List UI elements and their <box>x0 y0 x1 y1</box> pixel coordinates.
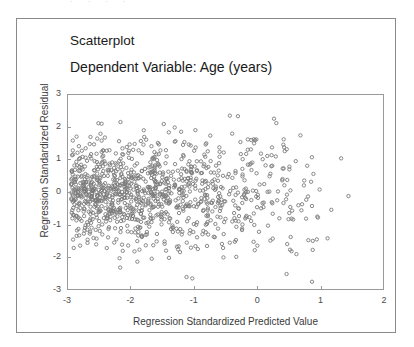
scatter-point <box>191 277 194 280</box>
scatter-point <box>98 229 101 232</box>
scatter-point <box>307 239 310 242</box>
scatter-point <box>271 212 274 215</box>
scatter-point <box>92 143 95 146</box>
scatter-point <box>179 173 182 176</box>
scatter-point <box>252 212 255 215</box>
scatter-point <box>139 220 142 223</box>
scatter-point <box>285 193 288 196</box>
scatter-point <box>132 188 135 191</box>
y-tick-mark <box>68 192 71 193</box>
scatter-points-layer <box>68 95 383 289</box>
scatter-point <box>164 162 167 165</box>
scatter-point <box>256 244 259 247</box>
scatter-point <box>214 164 217 167</box>
scatter-point <box>250 168 253 171</box>
scatter-point <box>155 240 158 243</box>
scatter-point <box>232 199 235 202</box>
scatter-point <box>237 214 240 217</box>
scatter-point <box>159 149 162 152</box>
scatter-point <box>148 225 151 228</box>
scatter-point <box>167 256 170 259</box>
scatter-point <box>217 161 220 164</box>
scatter-point <box>228 114 231 117</box>
scatter-point <box>139 139 142 142</box>
scatter-point <box>339 157 342 160</box>
scatter-point <box>216 179 219 182</box>
scatter-point <box>155 158 158 161</box>
scatter-point <box>142 143 145 146</box>
scatter-point <box>94 228 97 231</box>
scatter-point <box>117 140 120 143</box>
x-tick-label: 2 <box>374 295 394 305</box>
scatter-point <box>258 183 261 186</box>
scatter-point <box>209 159 212 162</box>
scatter-point <box>144 244 147 247</box>
scatter-point <box>199 160 202 163</box>
scatter-point <box>216 174 219 177</box>
scatter-point <box>76 151 79 154</box>
y-tick-label: -2 <box>47 251 61 261</box>
x-tick-label: -1 <box>184 295 204 305</box>
scatter-point <box>239 140 242 143</box>
scatter-point <box>232 211 235 214</box>
x-tick-label: -2 <box>120 295 140 305</box>
scatter-point <box>222 256 225 259</box>
scatter-point <box>309 180 312 183</box>
scatter-point <box>106 174 109 177</box>
scatter-point <box>183 140 186 143</box>
scatter-point <box>270 146 273 149</box>
scatter-point <box>115 238 118 241</box>
scatter-point <box>290 209 293 212</box>
scatter-point <box>120 243 123 246</box>
scatter-point <box>84 147 87 150</box>
scatter-point <box>71 238 74 241</box>
scatter-point <box>216 227 219 230</box>
scatter-point <box>231 132 234 135</box>
scatter-point <box>272 117 275 120</box>
scatter-point <box>289 205 292 208</box>
scatter-point <box>218 146 221 149</box>
scatter-point <box>82 214 85 217</box>
scatter-point <box>276 199 279 202</box>
scatter-point <box>109 218 112 221</box>
scatter-point <box>96 137 99 140</box>
scatter-point <box>214 205 217 208</box>
scatter-point <box>176 220 179 223</box>
scatter-point <box>118 257 121 260</box>
scatter-point <box>236 115 239 118</box>
scatter-point <box>100 205 103 208</box>
scatter-point <box>179 130 182 133</box>
scatter-point <box>188 228 191 231</box>
scatter-point <box>150 145 153 148</box>
scatter-point <box>274 155 277 158</box>
scatter-point <box>177 211 180 214</box>
scatter-point <box>76 175 79 178</box>
scatter-point <box>315 238 318 241</box>
scatter-point <box>150 257 153 260</box>
scatter-point <box>241 167 244 170</box>
scatter-point <box>282 201 285 204</box>
scatter-point <box>228 241 231 244</box>
scatter-point <box>78 244 81 247</box>
scan-artifact-text: · · · · <box>70 0 220 6</box>
scatter-point <box>104 220 107 223</box>
scatter-point <box>222 232 225 235</box>
scatter-point <box>137 149 140 152</box>
y-tick-label: 0 <box>47 186 61 196</box>
y-tick-mark <box>68 257 71 258</box>
scatter-point <box>266 154 269 157</box>
scatter-point <box>180 157 183 160</box>
scatter-point <box>185 241 188 244</box>
scatter-point <box>75 219 78 222</box>
y-tick-mark <box>68 127 71 128</box>
scatter-point <box>169 174 172 177</box>
scatter-point <box>176 230 179 233</box>
scatter-point <box>143 167 146 170</box>
scatter-point <box>114 152 117 155</box>
scatter-point <box>113 227 116 230</box>
scatter-point <box>249 219 252 222</box>
scatter-point <box>278 217 281 220</box>
scatter-point <box>245 152 248 155</box>
scatter-point <box>115 220 118 223</box>
scatter-point <box>266 224 269 227</box>
